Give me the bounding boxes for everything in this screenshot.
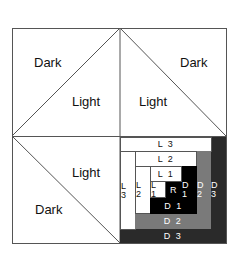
- top-right-dark-label: Dark: [180, 56, 207, 69]
- center-square-r: R: [166, 182, 182, 198]
- strip-d1-bottom: D 1: [150, 198, 197, 214]
- bottom-left-dark-label: Dark: [35, 203, 62, 216]
- strip-l3-left: L 3: [120, 151, 136, 230]
- d1-bottom-label: D 1: [164, 202, 183, 211]
- l2-top-label: L 2: [158, 155, 175, 164]
- strip-l2-top: L 2: [135, 151, 197, 167]
- center-r-label: R: [170, 186, 178, 195]
- bottom-left-light-label: Light: [72, 166, 100, 179]
- d1-right-label: D 1: [182, 181, 197, 199]
- d3-right-label: D 3: [211, 181, 226, 199]
- l3-top-label: L 3: [158, 140, 175, 149]
- l3-left-label: L 3: [121, 182, 135, 200]
- l2-left-label: L 2: [136, 181, 150, 199]
- strip-l2-left: L 2: [135, 166, 151, 214]
- strip-d2-bottom: D 2: [135, 214, 211, 229]
- top-left-dark-label: Dark: [34, 56, 61, 69]
- strip-l1-small: L 1: [150, 181, 166, 198]
- quilt-block-diagram: Dark Light Light Dark Light Dark D 3 D 3…: [0, 0, 239, 255]
- l1-small-label: L 1: [151, 181, 165, 199]
- l1-top-label: L 1: [158, 170, 175, 179]
- strip-d3-right: D 3: [211, 137, 226, 243]
- top-right-light-label: Light: [139, 95, 167, 108]
- strip-l3-top: L 3: [120, 137, 212, 152]
- strip-d3-bottom: D 3: [120, 229, 226, 243]
- d2-right-label: D 2: [197, 181, 211, 199]
- top-left-light-label: Light: [72, 95, 100, 108]
- d3-bottom-label: D 3: [164, 232, 183, 241]
- d2-bottom-label: D 2: [164, 217, 183, 226]
